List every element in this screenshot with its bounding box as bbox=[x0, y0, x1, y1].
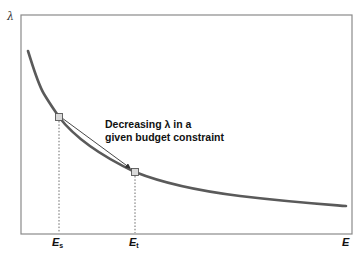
x-axis-label: E bbox=[342, 236, 349, 248]
annotation-line-2: given budget constraint bbox=[105, 131, 224, 144]
annotation-line-1: Decreasing λ in a bbox=[105, 118, 224, 131]
marker-et bbox=[132, 169, 139, 176]
x-tick-es: Es bbox=[52, 236, 63, 249]
x-tick-es-sub: s bbox=[59, 242, 63, 249]
annotation: Decreasing λ in a given budget constrain… bbox=[105, 118, 224, 144]
marker-es bbox=[56, 114, 63, 121]
x-tick-et: Et bbox=[129, 236, 139, 249]
y-axis-label: λ bbox=[7, 10, 14, 23]
x-tick-et-sub: t bbox=[136, 242, 138, 249]
